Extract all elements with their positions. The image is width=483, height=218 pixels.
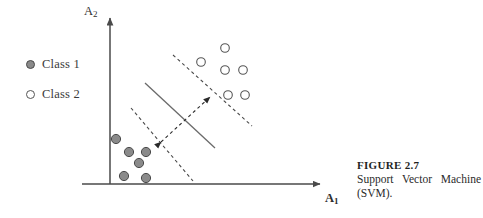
hollow-circle-icon	[26, 90, 35, 99]
legend-label-class-1: Class 1	[42, 57, 80, 72]
data-point-class2	[239, 66, 248, 75]
legend: Class 1 Class 2	[26, 54, 136, 114]
data-point-class2	[221, 66, 230, 75]
x-axis-label: A1	[325, 191, 339, 206]
data-point-class1	[124, 147, 133, 156]
margin-width-arrow	[161, 97, 210, 142]
data-point-class2	[224, 91, 233, 100]
separating-hyperplane-line	[145, 83, 215, 148]
figure-container: Class 1 Class 2 A2 A1 FIGURE 2.7 Support…	[0, 0, 483, 218]
filled-circle-icon	[26, 60, 35, 69]
caption-text: Support Vector Machine (SVM).	[357, 173, 481, 200]
data-point-class2	[197, 58, 206, 67]
data-point-class1	[141, 173, 150, 182]
x-axis-label-text: A	[325, 191, 334, 205]
legend-item-class-1: Class 1	[26, 54, 136, 75]
data-point-class2	[221, 44, 230, 53]
class-2-points-group	[197, 44, 250, 100]
y-axis-label-text: A	[84, 4, 93, 18]
caption-title: FIGURE 2.7	[357, 159, 481, 172]
data-point-class1	[111, 134, 120, 143]
y-axis-label-subscript: 2	[93, 9, 98, 19]
figure-caption: FIGURE 2.7 Support Vector Machine (SVM).	[357, 159, 481, 200]
margin-boundary-upper-line	[173, 55, 252, 126]
data-point-class1	[134, 158, 143, 167]
x-axis-label-subscript: 1	[334, 196, 339, 206]
data-point-class1	[141, 147, 150, 156]
data-point-class1	[119, 171, 128, 180]
legend-item-class-2: Class 2	[26, 84, 136, 105]
data-point-class2	[241, 91, 250, 100]
margin-boundaries-group	[131, 55, 252, 181]
class-1-points-group	[111, 134, 150, 182]
y-axis-label: A2	[84, 4, 98, 19]
legend-label-class-2: Class 2	[42, 87, 80, 102]
